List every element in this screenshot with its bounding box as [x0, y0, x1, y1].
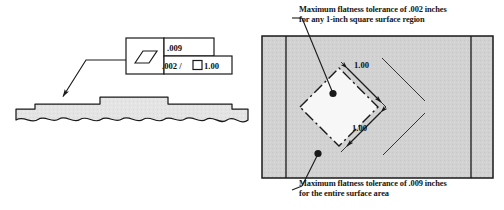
- part-section-outline: [16, 97, 248, 122]
- fcf-overall-tolerance-value: .009: [167, 43, 182, 53]
- annotation-unit-tolerance-line1: Maximum flatness tolerance of .002 inche…: [299, 5, 447, 15]
- flatness-leader-arrow: [63, 60, 126, 97]
- annotation-overall-tolerance-line1: Maximum flatness tolerance of .009 inche…: [299, 179, 447, 189]
- part-top-surface-view: [262, 18, 493, 190]
- fcf-unit-area-value: 1.00: [204, 61, 219, 71]
- annotation-unit-tolerance-line2: for any 1-inch square surface region: [299, 15, 447, 25]
- dimension-label-upper: 1.00: [354, 60, 369, 70]
- fcf-unit-tolerance-value: .002 /: [162, 61, 182, 71]
- part-side-view-section: [16, 97, 248, 122]
- annotation-unit-tolerance: Maximum flatness tolerance of .002 inche…: [299, 5, 447, 25]
- square-symbol: [193, 61, 202, 70]
- annotation-overall-tolerance: Maximum flatness tolerance of .009 inche…: [299, 179, 447, 199]
- dimension-label-lower: 1.00: [352, 123, 367, 133]
- annotation-overall-tolerance-line2: for the entire surface area: [299, 189, 447, 199]
